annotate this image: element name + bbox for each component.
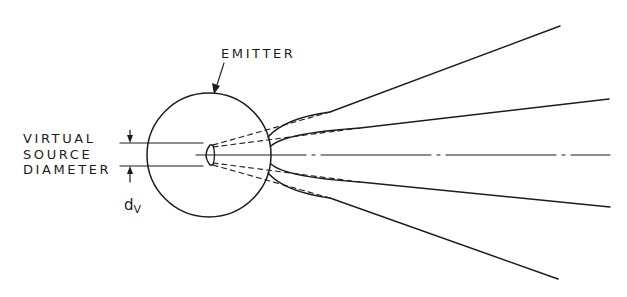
dv-symbol-label: dV (124, 197, 141, 218)
emitted-rays (268, 26, 610, 279)
ray-lower-outer (268, 173, 558, 279)
ray-upper-inner (271, 99, 609, 146)
emitter-leader-arrow (212, 63, 224, 94)
vsd-label-line2: SOURCE (23, 147, 111, 163)
virtual-source-diameter-label: VIRTUAL SOURCE DIAMETER (23, 131, 111, 178)
dimension-arrow-down (127, 130, 133, 143)
vsd-label-line3: DIAMETER (23, 162, 111, 178)
vsd-label-line1: VIRTUAL (23, 131, 111, 147)
ray-lower-inner (271, 164, 610, 207)
dimension-arrow-up (127, 166, 133, 182)
emitter-label: EMITTER (221, 46, 295, 62)
dv-subscript: V (134, 203, 142, 216)
dv-main: d (124, 196, 134, 214)
ray-upper-outer (268, 26, 560, 137)
